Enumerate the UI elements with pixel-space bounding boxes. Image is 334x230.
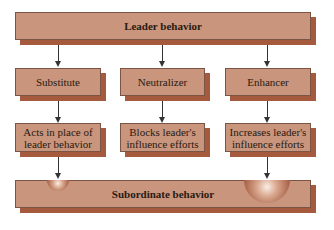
connector-line <box>162 96 163 118</box>
enhancer-effect-line1: Increases leader's <box>230 126 307 138</box>
neutralizer-effect-line2: influence efforts <box>126 138 198 150</box>
enhancer-label: Enhancer <box>247 76 289 88</box>
substitute-box: Substitute <box>15 68 101 96</box>
subordinate-behavior-label: Subordinate behavior <box>112 188 214 200</box>
leader-behavior-label: Leader behavior <box>124 20 202 32</box>
substitute-effect-box: Acts in place of leader behavior <box>15 123 101 152</box>
substitute-label: Substitute <box>36 76 80 88</box>
arrow-down-icon <box>159 117 165 123</box>
enhancer-effect-box: Increases leader's influence efforts <box>225 123 311 152</box>
arrow-down-icon <box>55 173 61 179</box>
neutralizer-box: Neutralizer <box>120 68 205 96</box>
arrow-down-icon <box>264 61 270 67</box>
connector-line <box>58 96 59 118</box>
leader-behavior-box: Leader behavior <box>15 12 311 40</box>
neutralizer-label: Neutralizer <box>138 76 187 88</box>
arrow-down-icon <box>264 117 270 123</box>
enhancer-effect-line2: influence efforts <box>232 138 304 150</box>
arrow-down-icon <box>55 61 61 67</box>
neutralizer-effect-box: Blocks leader's influence efforts <box>120 123 205 152</box>
substitute-effect-line2: leader behavior <box>24 138 92 150</box>
substitute-effect-line1: Acts in place of <box>23 126 92 138</box>
connector-line <box>58 152 59 174</box>
neutralizer-effect-line1: Blocks leader's <box>129 126 195 138</box>
enhancer-box: Enhancer <box>225 68 311 96</box>
connector-line <box>267 152 268 174</box>
arrow-down-icon <box>55 117 61 123</box>
connector-line <box>267 40 268 62</box>
arrow-down-icon <box>264 173 270 179</box>
connector-line <box>58 40 59 62</box>
arrow-down-icon <box>159 61 165 67</box>
connector-line <box>162 40 163 62</box>
connector-line <box>267 96 268 118</box>
